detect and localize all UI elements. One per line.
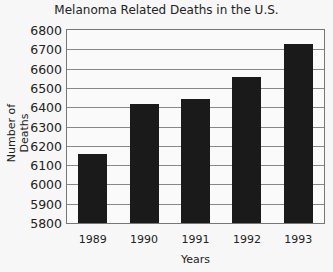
y-tick-label: 6800 [12,23,62,38]
y-tick-label: 6700 [12,42,62,57]
x-axis-label: Years [66,253,325,266]
bar-1993 [284,44,313,223]
bar-1991 [181,99,210,223]
plot-area [66,29,325,224]
bar-1989 [78,154,107,223]
x-tick-label: 1992 [227,233,267,246]
bar-1990 [130,104,159,223]
y-tick-label: 5900 [12,196,62,211]
y-tick-label: 6400 [12,100,62,115]
x-tick-label: 1989 [73,233,113,246]
x-tick-label: 1993 [278,233,318,246]
bar-1992 [232,77,261,223]
y-tick-label: 6100 [12,158,62,173]
y-tick-label: 5800 [12,216,62,231]
x-tick-label: 1990 [124,233,164,246]
y-tick-label: 6000 [12,177,62,192]
y-tick-label: 6600 [12,61,62,76]
y-tick-label: 6200 [12,138,62,153]
x-tick-label: 1991 [176,233,216,246]
chart-title: Melanoma Related Deaths in the U.S. [0,3,333,17]
y-tick-label: 6300 [12,119,62,134]
y-tick-label: 6500 [12,80,62,95]
